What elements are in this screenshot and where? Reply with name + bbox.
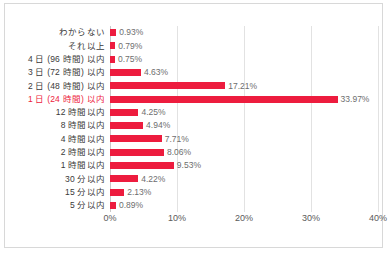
bar-value-label: 7.71% <box>165 135 189 144</box>
category-label: 12 時間以内 <box>56 106 105 119</box>
bar-row: 8.06% <box>110 146 378 159</box>
bar-row: 0.89% <box>110 199 378 212</box>
category-label: 3 日 (72 時間) 以内 <box>28 66 105 79</box>
bar-value-label: 4.25% <box>141 108 165 117</box>
bar-value-label: 4.22% <box>141 175 165 184</box>
bar <box>110 29 116 36</box>
bar-value-label: 4.94% <box>146 121 170 130</box>
bar-row: 9.53% <box>110 159 378 172</box>
bar <box>110 109 138 116</box>
bar-value-label: 8.06% <box>167 148 191 157</box>
category-label: 5 分以内 <box>70 199 105 212</box>
x-tick-label: 0% <box>103 214 116 223</box>
bar-value-label: 0.89% <box>119 201 143 210</box>
bar-row: 4.63% <box>110 66 378 79</box>
chart-screenshot: わからないそれ以上4 日 (96 時間) 以内3 日 (72 時間) 以内2 日… <box>0 0 389 258</box>
x-tick-label: 30% <box>302 214 320 223</box>
bar <box>110 135 162 142</box>
bar <box>110 162 174 169</box>
x-tick-label: 10% <box>168 214 186 223</box>
category-label: 1 日 (24 時間) 以内 <box>28 92 105 105</box>
category-label: 4 日 (96 時間) 以内 <box>28 53 105 66</box>
plot-area: 0.93%0.79%0.75%4.63%17.21%33.97%4.25%4.9… <box>110 26 378 212</box>
bar-value-label: 9.53% <box>177 161 201 170</box>
category-label: 1 時間以内 <box>61 159 105 172</box>
category-axis-labels: わからないそれ以上4 日 (96 時間) 以内3 日 (72 時間) 以内2 日… <box>0 26 105 212</box>
bar-row: 7.71% <box>110 132 378 145</box>
bar-row: 0.93% <box>110 26 378 39</box>
bar-value-label: 17.21% <box>228 82 257 91</box>
bar-value-label: 33.97% <box>341 95 370 104</box>
bar-row: 4.94% <box>110 119 378 132</box>
bar <box>110 42 115 49</box>
bar-value-label: 0.93% <box>119 28 143 37</box>
bar-row: 4.25% <box>110 106 378 119</box>
bar-value-label: 0.75% <box>118 55 142 64</box>
gridline-40pct <box>378 26 379 212</box>
bar-row: 33.97% <box>110 92 378 105</box>
category-label: 8 時間以内 <box>61 119 105 132</box>
x-tick-label: 20% <box>235 214 253 223</box>
bar <box>110 56 115 63</box>
bar <box>110 189 124 196</box>
category-label: 2 時間以内 <box>61 146 105 159</box>
x-axis-tick-labels: 0%10%20%30%40% <box>110 214 378 230</box>
bar-row: 0.79% <box>110 39 378 52</box>
bar-rows: 0.93%0.79%0.75%4.63%17.21%33.97%4.25%4.9… <box>110 26 378 212</box>
bar-value-label: 2.13% <box>127 188 151 197</box>
bar <box>110 149 164 156</box>
category-label: 15 分以内 <box>65 185 105 198</box>
category-label: それ以上 <box>68 39 105 52</box>
bar-row: 0.75% <box>110 53 378 66</box>
bar <box>110 96 338 103</box>
category-label: 30 分以内 <box>65 172 105 185</box>
bar-value-label: 4.63% <box>144 68 168 77</box>
bar-row: 17.21% <box>110 79 378 92</box>
bar <box>110 175 138 182</box>
category-label: わからない <box>59 26 105 39</box>
category-label: 2 日 (48 時間) 以内 <box>28 79 105 92</box>
bar <box>110 69 141 76</box>
category-label: 4 時間以内 <box>61 132 105 145</box>
bar <box>110 202 116 209</box>
bar <box>110 122 143 129</box>
x-tick-label: 40% <box>369 214 387 223</box>
bar-value-label: 0.79% <box>118 42 142 51</box>
bar <box>110 82 225 89</box>
bar-row: 4.22% <box>110 172 378 185</box>
bar-row: 2.13% <box>110 185 378 198</box>
